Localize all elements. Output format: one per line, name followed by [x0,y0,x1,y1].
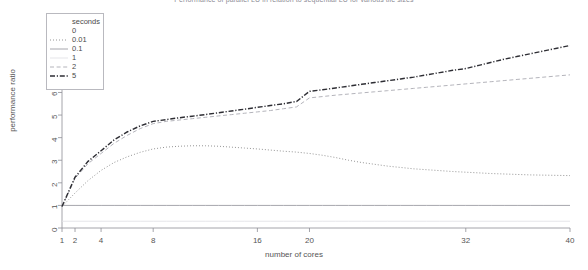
legend-entry-5: 5 [47,71,103,80]
legend-entry-0_01: 0.01 [47,35,103,44]
legend-title: seconds [72,17,103,26]
legend-entry-label: 0.1 [72,44,82,53]
legend-entry-0: 0 [47,26,103,35]
legend-line-swatch [48,62,70,71]
legend-line-swatch [48,53,70,62]
legend-line-swatch [48,35,70,44]
series-line-2 [62,75,570,207]
legend-entry-0_1: 0.1 [47,44,103,53]
data-series-group [62,45,570,221]
legend-entry-2: 2 [47,62,103,71]
legend-entry-label: 2 [72,62,76,71]
legend-line-swatch [48,44,70,53]
chart-canvas: Performance of parallel LU in relation t… [0,0,588,270]
legend-entry-label: 0.01 [72,35,87,44]
legend-entry-label: 0 [72,26,76,35]
axis-ticks [58,47,570,232]
axis-lines [62,26,570,228]
legend-entries: 00.010.1125 [47,26,103,80]
legend-entry-label: 5 [72,71,76,80]
legend-entry-1: 1 [47,53,103,62]
legend-entry-label: 1 [72,53,76,62]
legend-line-swatch [48,26,70,35]
legend-box: seconds 00.010.1125 [46,13,104,90]
series-line-5 [62,45,570,206]
series-line-0_01 [62,146,570,207]
legend-line-swatch [48,71,70,80]
